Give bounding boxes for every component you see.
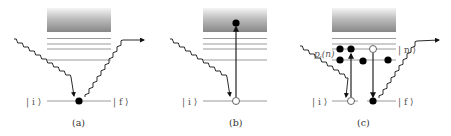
- panel-c: pi(n) | n ⟩ | i ⟩ | f ⟩ (c): [300, 8, 439, 128]
- final-state-label: | f ⟩: [398, 97, 414, 108]
- hole-open-dot: [370, 46, 377, 53]
- bound-levels: [203, 39, 267, 61]
- panel-b: | i ⟩ (b): [170, 8, 267, 128]
- panel-caption: (c): [357, 117, 370, 128]
- initial-state-label: | i ⟩: [26, 97, 41, 108]
- electron-filled-dot: [336, 45, 343, 52]
- incoming-photon-wave-icon: [170, 39, 230, 96]
- panel-a: | i ⟩ | f ⟩ (a): [14, 8, 144, 128]
- electron-filled-dot: [384, 56, 391, 63]
- final-state-label: | f ⟩: [113, 97, 129, 108]
- bound-levels: [47, 39, 111, 61]
- electron-filled-dot: [347, 45, 354, 52]
- hole-open-dot: [233, 98, 240, 105]
- panel-caption: (b): [229, 117, 243, 128]
- electron-filled-dot: [369, 97, 376, 104]
- continuum-band: [332, 8, 396, 32]
- initial-state-label: | i ⟩: [182, 97, 197, 108]
- intermediate-level-electrons: [336, 45, 391, 64]
- initial-state-label: | i ⟩: [312, 97, 327, 108]
- figure-canvas: | i ⟩ | f ⟩ (a) | i ⟩ (b): [0, 0, 451, 136]
- hole-open-dot: [348, 98, 355, 105]
- intermediate-state-label: | n ⟩: [398, 45, 416, 56]
- electron-filled-dot: [359, 57, 366, 64]
- electron-filled-dot: [336, 56, 343, 63]
- panel-caption: (a): [72, 117, 85, 128]
- energy-level-diagram-figure: | i ⟩ | f ⟩ (a) | i ⟩ (b): [0, 0, 451, 136]
- continuum-band: [47, 8, 111, 32]
- incoming-photon-wave-icon: [14, 39, 74, 96]
- occupation-probability-label: pi(n): [314, 49, 335, 60]
- electron-filled-dot: [75, 97, 82, 104]
- electron-filled-dot: [232, 19, 239, 26]
